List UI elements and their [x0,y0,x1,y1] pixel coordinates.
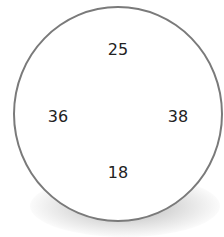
number-circle [13,6,223,222]
number-right: 38 [168,107,188,126]
number-bottom: 18 [108,163,128,182]
number-top: 25 [108,40,128,59]
number-left: 36 [48,107,68,126]
